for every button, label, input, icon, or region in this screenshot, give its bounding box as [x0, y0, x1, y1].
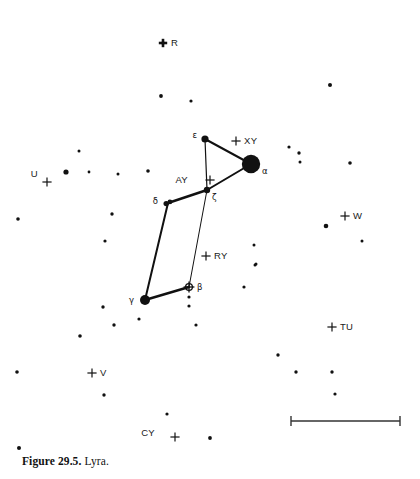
- field-star: [361, 240, 364, 243]
- star-dot: [201, 135, 208, 142]
- star-chart-lyra: RXYAYRYUWTUVCY εαζδβγ: [0, 0, 420, 450]
- variable-star-label: XY: [244, 135, 258, 146]
- field-star: [276, 353, 279, 356]
- field-star: [255, 263, 258, 266]
- field-star: [17, 446, 21, 450]
- field-star: [63, 169, 68, 174]
- field-star: [146, 169, 150, 173]
- star-gamma-sulafat: γ: [129, 295, 150, 305]
- star-label-epsilon: ε: [192, 130, 197, 140]
- field-star: [242, 285, 245, 288]
- star-label-gamma-sulafat: γ: [129, 295, 134, 305]
- constellation-line-ζ-δ: [168, 190, 207, 203]
- constellation-lines-group: [145, 139, 251, 300]
- field-star: [189, 99, 192, 102]
- figure-caption: Figure 29.5. Lyra.: [22, 455, 109, 467]
- star-dot: [161, 41, 164, 44]
- field-star: [324, 224, 329, 229]
- constellation-line-γ-β: [145, 287, 189, 300]
- field-star: [110, 212, 113, 215]
- variable-star-xy: XY: [231, 135, 257, 146]
- variable-star-cy: CY: [141, 427, 179, 442]
- field-star: [299, 161, 302, 164]
- field-star: [330, 370, 333, 373]
- field-star: [88, 171, 91, 174]
- field-star: [165, 412, 168, 415]
- star-dot: [140, 295, 150, 305]
- field-star: [159, 94, 163, 98]
- variable-star-label: V: [100, 367, 107, 378]
- field-star: [187, 295, 190, 298]
- scale-bar-group: [291, 416, 400, 426]
- field-star: [253, 244, 256, 247]
- figure-caption-label: Figure 29.5.: [22, 455, 81, 467]
- star-label-alpha-vega: α: [262, 166, 268, 176]
- field-star: [208, 436, 212, 440]
- field-stars-group: [15, 83, 363, 450]
- field-star: [348, 161, 352, 165]
- variable-star-label: U: [31, 168, 38, 179]
- field-star: [16, 217, 20, 221]
- variable-star-markers-group: RXYAYRYUWTUVCY: [31, 37, 362, 442]
- variable-star-w: W: [340, 210, 362, 221]
- figure-caption-title: Lyra.: [84, 455, 108, 467]
- constellation-line-ε-ζ: [205, 139, 207, 190]
- field-star: [78, 334, 82, 338]
- field-star: [15, 370, 19, 374]
- figure-lyra: RXYAYRYUWTUVCY εαζδβγ Figure 29.5. Lyra.: [0, 0, 420, 479]
- field-star: [101, 305, 104, 308]
- field-star: [297, 151, 300, 154]
- variable-star-label: R: [171, 37, 178, 48]
- variable-star-tu: TU: [327, 321, 353, 332]
- field-star: [333, 392, 336, 395]
- field-star: [137, 317, 140, 320]
- field-star: [102, 393, 105, 396]
- field-star: [194, 323, 197, 326]
- variable-star-label: RY: [214, 250, 228, 261]
- variable-star-label: TU: [340, 321, 353, 332]
- field-star: [112, 323, 115, 326]
- variable-star-u: U: [31, 168, 52, 187]
- star-label-delta: δ: [153, 196, 158, 206]
- field-star: [328, 83, 332, 87]
- field-star: [103, 239, 106, 242]
- field-star: [117, 173, 120, 176]
- variable-star-ry: RY: [201, 250, 228, 261]
- variable-star-v: V: [87, 367, 107, 378]
- variable-star-label: AY: [175, 174, 188, 185]
- star-delta: δ: [153, 196, 173, 206]
- star-beta-sheliak: β: [184, 282, 203, 293]
- star-dot: [242, 155, 260, 173]
- star-label-zeta: ζ: [212, 192, 217, 202]
- field-star: [287, 145, 290, 148]
- field-star: [187, 304, 190, 307]
- variable-star-r: R: [159, 37, 178, 48]
- variable-star-label: W: [353, 210, 362, 221]
- constellation-line-δ-γ: [145, 203, 168, 300]
- star-label-beta-sheliak: β: [197, 282, 202, 292]
- field-star: [294, 370, 297, 373]
- constellation-line-β-ζ: [189, 190, 207, 287]
- star-dot: [168, 200, 173, 205]
- star-alpha-vega: α: [242, 155, 268, 176]
- star-epsilon: ε: [192, 130, 208, 143]
- star-dot: [204, 187, 210, 193]
- field-star: [78, 150, 81, 153]
- variable-star-ay: AY: [175, 174, 214, 185]
- variable-star-label: CY: [141, 427, 155, 438]
